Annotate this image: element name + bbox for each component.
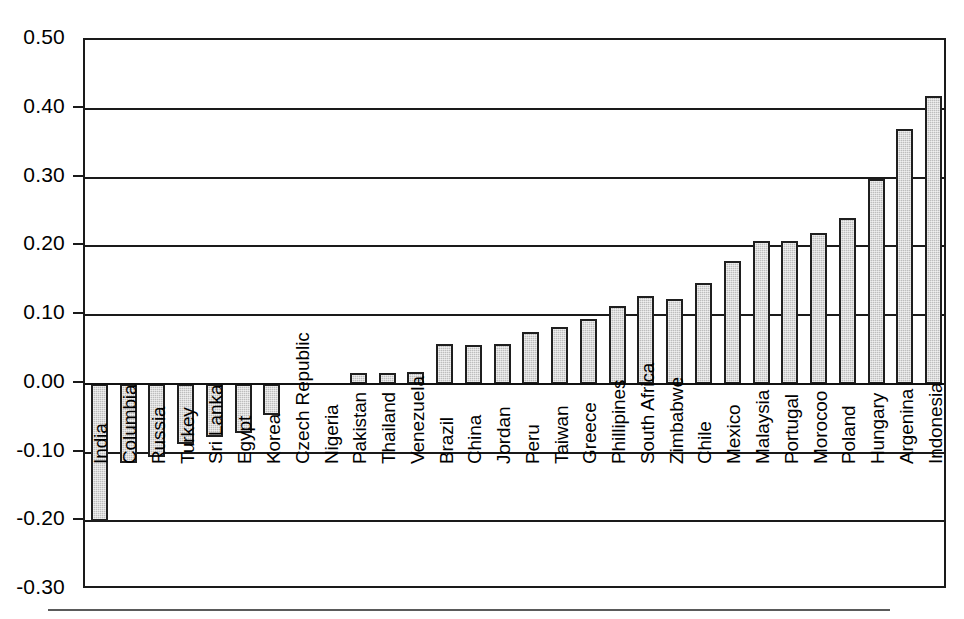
bar <box>235 384 252 434</box>
bar <box>753 241 770 384</box>
bar <box>925 96 942 383</box>
y-tick-label: 0.10 <box>0 300 65 324</box>
y-tick-mark <box>73 450 83 452</box>
bar <box>896 129 913 383</box>
bar <box>609 306 626 384</box>
zero-axis-line <box>85 383 944 385</box>
bar <box>724 261 741 383</box>
bar <box>436 344 453 384</box>
bar <box>120 384 137 463</box>
y-tick-label: 0.30 <box>0 163 65 187</box>
bar-series <box>85 40 944 586</box>
y-tick-label: 0.00 <box>0 369 65 393</box>
bar <box>263 384 280 415</box>
y-tick-label: -0.20 <box>0 506 65 530</box>
bar <box>177 384 194 445</box>
bar <box>839 218 856 384</box>
bar <box>695 283 712 384</box>
y-tick-mark <box>73 175 83 177</box>
bar <box>522 332 539 384</box>
bar <box>810 233 827 384</box>
y-tick-label: 0.50 <box>0 25 65 49</box>
y-tick-mark <box>73 518 83 520</box>
plot-area <box>83 38 946 588</box>
bar <box>637 296 654 383</box>
bar <box>494 344 511 384</box>
y-tick-mark <box>73 243 83 245</box>
bar <box>868 179 885 384</box>
y-tick-label: 0.40 <box>0 94 65 118</box>
y-tick-mark <box>73 106 83 108</box>
y-tick-mark <box>73 381 83 383</box>
bar-chart: 0.500.400.300.200.100.00-0.10-0.20-0.30 … <box>0 0 964 619</box>
bar <box>465 345 482 384</box>
y-tick-label: -0.30 <box>0 575 65 599</box>
y-tick-label: -0.10 <box>0 438 65 462</box>
footer-divider <box>48 609 890 611</box>
bar <box>91 384 108 522</box>
bar <box>551 327 568 384</box>
bar <box>580 319 597 384</box>
bar <box>666 299 683 384</box>
y-tick-label: 0.20 <box>0 231 65 255</box>
y-tick-mark <box>73 312 83 314</box>
bar <box>206 384 223 437</box>
bar <box>781 241 798 384</box>
bar <box>148 384 165 457</box>
